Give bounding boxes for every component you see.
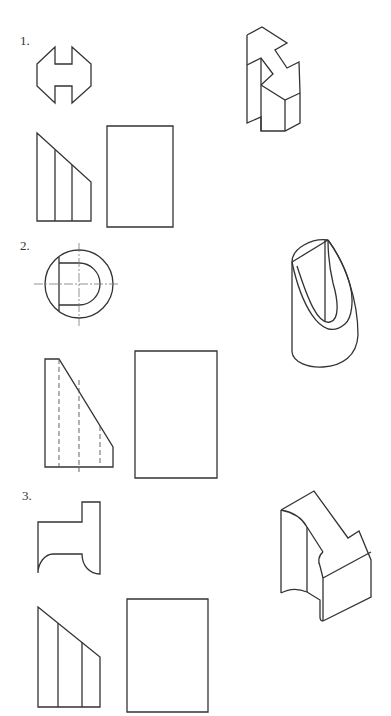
problem-1-front-view: [37, 133, 91, 221]
drawing-canvas: [0, 0, 391, 716]
problem-2-isometric: [292, 240, 358, 367]
problem-3-side-view-blank: [127, 599, 208, 712]
problem-1-side-view-blank: [107, 126, 173, 227]
problem-3-front-view: [38, 607, 100, 707]
problem-1-isometric: [247, 27, 300, 131]
problem-3-isometric: [281, 491, 371, 621]
problem-2-side-view-blank: [135, 351, 217, 478]
problem-2-top-view: [34, 243, 120, 326]
problem-3-top-view: [38, 502, 100, 574]
problem-2-front-view: [45, 359, 113, 472]
problem-1-top-view: [37, 47, 91, 103]
